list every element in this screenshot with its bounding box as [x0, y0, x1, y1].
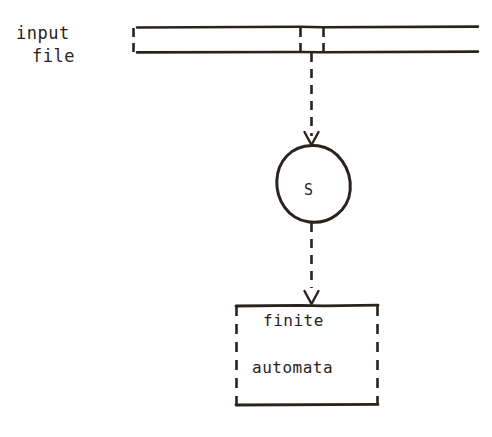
scanner-state-circle-outline — [277, 145, 351, 222]
scanner-diagram: inputfile S finite automata — [0, 0, 492, 437]
scanner-state-circle — [277, 145, 351, 222]
input-file-label-line1: input — [16, 23, 70, 43]
scanner-state-label: S — [304, 180, 313, 200]
tape-bottom-line — [137, 52, 478, 53]
finite-automata-line2: automata — [252, 357, 333, 379]
connector-state-to-automata — [305, 223, 319, 304]
input-file-label-line2: file — [16, 45, 75, 68]
connector-state-to-automata-arrowhead-icon — [305, 291, 319, 304]
finite-automata-box-bottom-line — [236, 404, 378, 405]
finite-automata-box-top-line — [236, 305, 378, 306]
tape-top-line — [137, 27, 478, 28]
input-file-tape — [134, 27, 479, 53]
finite-automata-line1: finite — [263, 310, 324, 332]
connector-tape-to-state — [305, 53, 319, 145]
input-file-label: inputfile — [16, 22, 75, 68]
